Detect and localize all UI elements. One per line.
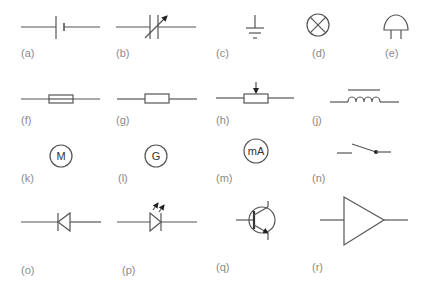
label-e: (e) (385, 47, 398, 59)
label-o: (o) (21, 264, 34, 276)
amplifier-symbol (320, 197, 408, 245)
switch-symbol (337, 144, 391, 154)
label-h: (h) (216, 114, 229, 126)
label-n: (n) (312, 172, 325, 184)
resistor-symbol (117, 94, 197, 103)
label-c: (c) (216, 47, 229, 59)
label-m: (m) (216, 172, 233, 184)
label-d: (d) (312, 47, 325, 59)
generator-symbol: G (145, 145, 167, 167)
generator-letter: G (152, 150, 161, 162)
label-p: (p) (122, 264, 135, 276)
label-b: (b) (116, 47, 129, 59)
motor-letter: M (56, 150, 65, 162)
label-r: (r) (312, 261, 323, 273)
label-g: (g) (116, 114, 129, 126)
transistor-symbol (236, 201, 275, 240)
potentiometer-symbol (216, 82, 294, 103)
milliammeter-letters: mA (248, 145, 265, 157)
label-l: (l) (118, 172, 128, 184)
label-f: (f) (21, 114, 31, 126)
fuse-symbol (21, 95, 100, 103)
label-a: (a) (21, 47, 34, 59)
buzzer-symbol (384, 15, 408, 39)
battery-cell-symbol (21, 16, 100, 39)
variable-capacitor-symbol (116, 15, 196, 39)
inductor-symbol (330, 90, 399, 102)
label-q: (q) (216, 261, 229, 273)
earth-ground-symbol (246, 15, 264, 38)
motor-symbol: M (50, 145, 72, 167)
circuit-symbols-diagram: M G mA (0, 0, 434, 284)
lamp-symbol (307, 14, 329, 36)
diode-symbol (21, 213, 101, 231)
label-k: (k) (21, 172, 34, 184)
led-symbol (117, 203, 197, 231)
milliammeter-symbol: mA (244, 139, 268, 163)
label-j: (j) (312, 114, 322, 126)
